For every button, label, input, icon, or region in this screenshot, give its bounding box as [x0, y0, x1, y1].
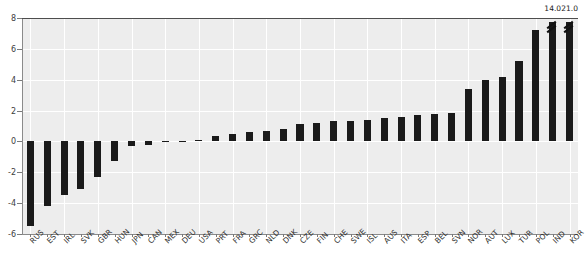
bar-GBR[interactable] [94, 141, 101, 176]
y-tick-label: 6 [11, 45, 16, 54]
bar-NLD[interactable] [263, 131, 270, 142]
bar-AUT[interactable] [482, 80, 489, 142]
y-tick-mark [17, 172, 22, 173]
bar-RUS[interactable] [27, 141, 34, 226]
gridline-x-FRA [233, 18, 234, 234]
plot-clip-region [22, 18, 578, 234]
y-tick-mark [17, 49, 22, 50]
bar-USA[interactable] [195, 140, 202, 142]
bar-LUX[interactable] [499, 77, 506, 142]
y-tick-mark [17, 80, 22, 81]
plot-area [22, 18, 578, 234]
bar-KOR[interactable] [566, 22, 573, 142]
bar-BEL[interactable] [431, 114, 438, 142]
clipped-chart-title [0, 0, 582, 1]
bar-CAN[interactable] [145, 141, 152, 145]
bar-IRL[interactable] [61, 141, 68, 195]
y-tick-label: 2 [11, 107, 16, 116]
bar-IND[interactable] [549, 22, 556, 142]
zero-baseline [22, 18, 578, 19]
gridline-x-IRL [64, 18, 65, 234]
y-tick-mark [17, 234, 22, 235]
bar-POL[interactable] [532, 30, 539, 141]
bar-ESP[interactable] [414, 115, 421, 141]
bar-ISL[interactable] [364, 120, 371, 142]
bar-HUN[interactable] [111, 141, 118, 161]
y-tick-mark [17, 111, 22, 112]
y-axis-line [22, 18, 23, 234]
bar-FRA[interactable] [229, 134, 236, 142]
y-tick-label: 8 [11, 14, 16, 23]
gridline-x-MEX [165, 18, 166, 234]
bar-JPN[interactable] [128, 141, 135, 146]
gridline-x-NLD [266, 18, 267, 234]
y-tick-label: -4 [8, 199, 16, 208]
y-tick-label: 0 [11, 137, 16, 146]
y-tick-mark [17, 203, 22, 204]
bar-TUR[interactable] [515, 61, 522, 141]
value-annotation-KOR: 21.0 [558, 4, 582, 13]
gridline-x-USA [199, 18, 200, 234]
y-tick-label: -2 [8, 168, 16, 177]
bar-SWE[interactable] [347, 121, 354, 142]
bar-EST[interactable] [44, 141, 51, 206]
bar-AUS[interactable] [381, 118, 388, 141]
bar-FIN[interactable] [313, 123, 320, 142]
bar-DNK[interactable] [280, 129, 287, 141]
bar-ITA[interactable] [398, 117, 405, 142]
gridline-x-GBR [98, 18, 99, 234]
bar-NOR[interactable] [465, 89, 472, 141]
bar-PRT[interactable] [212, 136, 219, 141]
bar-DEU[interactable] [179, 141, 186, 142]
bar-CHE[interactable] [330, 121, 337, 141]
y-tick-label: 4 [11, 76, 16, 85]
y-tick-mark [17, 141, 22, 142]
bar-SVN[interactable] [448, 113, 455, 142]
gridline-x-JPN [132, 18, 133, 234]
bar-MEX[interactable] [162, 141, 169, 142]
y-tick-label: -6 [8, 230, 16, 239]
bar-GRC[interactable] [246, 132, 253, 141]
bar-CZE[interactable] [296, 124, 303, 141]
bar-SVK[interactable] [77, 141, 84, 189]
